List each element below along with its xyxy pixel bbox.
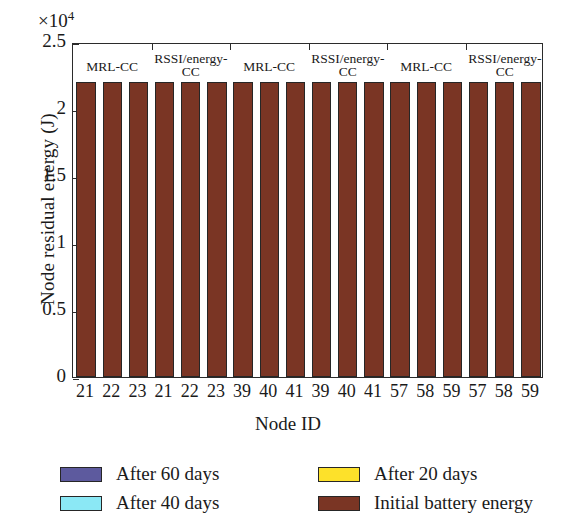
legend-item-initial-battery-energy: Initial battery energy [318, 492, 533, 514]
y-tick-label: 0.5 [10, 298, 66, 320]
x-tick-top [230, 44, 231, 50]
legend-swatch [60, 467, 102, 482]
bar-node-41 [364, 42, 383, 377]
bar-node-57 [390, 42, 409, 377]
x-tick-top [309, 44, 310, 50]
chart-figure: ×104 Node residual energy (J) MRL-CCRSSI… [0, 0, 576, 523]
legend-swatch [318, 496, 360, 511]
y-tick-label: 2.5 [10, 30, 66, 52]
bar-node-59 [521, 42, 540, 377]
bar-segment-initial-battery-energy [155, 82, 174, 377]
y-tick-label: 2 [10, 97, 66, 119]
bar-segment-initial-battery-energy [338, 82, 357, 377]
x-tick-top [387, 44, 388, 50]
legend-label: After 20 days [374, 463, 477, 485]
legend-label: After 60 days [116, 463, 219, 485]
y-tick-label: 1 [10, 231, 66, 253]
bar-segment-initial-battery-energy [495, 82, 514, 377]
bar-segment-initial-battery-energy [286, 82, 305, 377]
x-tick-top [466, 44, 467, 50]
bar-node-57 [469, 42, 488, 377]
bar-node-58 [417, 42, 436, 377]
legend-swatch [60, 496, 102, 511]
bar-segment-initial-battery-energy [417, 82, 436, 377]
bar-segment-initial-battery-energy [129, 82, 148, 377]
bar-node-39 [312, 42, 331, 377]
bar-node-23 [129, 42, 148, 377]
y-tick-label: 1.5 [10, 164, 66, 186]
bar-segment-initial-battery-energy [260, 82, 279, 377]
bar-node-22 [181, 42, 200, 377]
bar-segment-initial-battery-energy [521, 82, 540, 377]
bar-segment-initial-battery-energy [469, 82, 488, 377]
bar-segment-initial-battery-energy [103, 82, 122, 377]
bar-node-39 [233, 42, 252, 377]
bar-node-59 [443, 42, 462, 377]
y-tick [73, 379, 79, 380]
legend-item-after-60-days: After 60 days [60, 463, 219, 485]
group-label-5: RSSI/energy- CC [457, 52, 553, 78]
bar-node-23 [207, 42, 226, 377]
legend-swatch [318, 467, 360, 482]
x-tick-top [152, 44, 153, 50]
bar-node-22 [103, 42, 122, 377]
bar-node-58 [495, 42, 514, 377]
y-axis-exponent: ×104 [38, 8, 74, 32]
y-tick-label: 0 [10, 365, 66, 387]
bar-segment-initial-battery-energy [181, 82, 200, 377]
legend-label: Initial battery energy [374, 492, 533, 514]
bar-segment-initial-battery-energy [312, 82, 331, 377]
bar-segment-initial-battery-energy [443, 82, 462, 377]
bar-segment-initial-battery-energy [233, 82, 252, 377]
bar-segment-initial-battery-energy [207, 82, 226, 377]
bar-node-40 [260, 42, 279, 377]
plot-area: MRL-CCRSSI/energy- CCMRL-CCRSSI/energy- … [72, 43, 543, 378]
y-axis-exponent-base: ×10 [38, 10, 68, 31]
bar-segment-initial-battery-energy [390, 82, 409, 377]
legend-label: After 40 days [116, 492, 219, 514]
y-axis-exponent-power: 4 [68, 8, 75, 23]
bar-segment-initial-battery-energy [76, 82, 95, 377]
bar-node-40 [338, 42, 357, 377]
bar-segment-initial-battery-energy [364, 82, 383, 377]
chart-legend: After 60 daysAfter 20 daysAfter 40 daysI… [60, 463, 560, 519]
y-tick [73, 44, 79, 45]
legend-item-after-40-days: After 40 days [60, 492, 219, 514]
bar-node-21 [155, 42, 174, 377]
x-tick-label-59-17: 59 [515, 381, 545, 402]
bars-container [73, 44, 542, 377]
bar-node-21 [76, 42, 95, 377]
bar-node-41 [286, 42, 305, 377]
x-axis-label: Node ID [0, 413, 576, 435]
legend-item-after-20-days: After 20 days [318, 463, 477, 485]
